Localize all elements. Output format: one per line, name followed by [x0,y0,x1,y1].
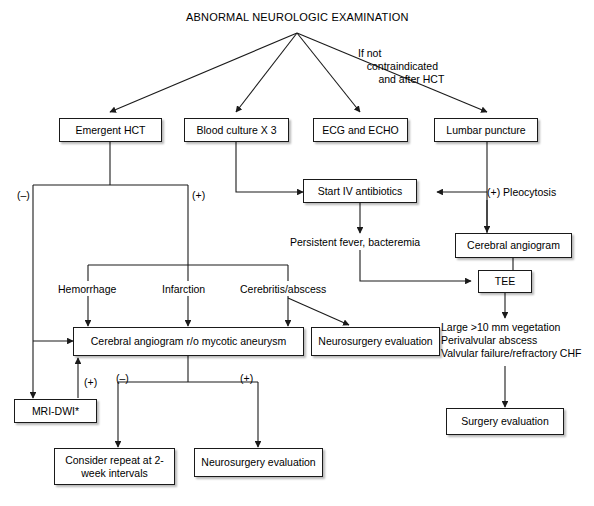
label-infarction: Infarction [162,283,205,296]
label-persistent-fever: Persistent fever, bacteremia [290,236,420,249]
node-ecg-echo[interactable]: ECG and ECHO [313,118,408,142]
edge-title-to-emergent-hct [110,33,297,112]
node-neurosurgery-evaluation-lower[interactable]: Neurosurgery evaluation [194,448,323,477]
edge-title-to-blood-culture [236,33,297,112]
edge-title-to-ecg-echo [297,33,360,112]
label-cerebritis-abscess: Cerebritis/abscess [240,283,326,296]
node-neurosurgery-evaluation-upper[interactable]: Neurosurgery evaluation [311,327,440,356]
node-start-iv-antibiotics[interactable]: Start IV antibiotics [303,179,417,203]
label-hemorrhage: Hemorrhage [58,283,116,296]
node-emergent-hct[interactable]: Emergent HCT [59,118,162,142]
node-surgery-evaluation[interactable]: Surgery evaluation [446,408,564,435]
edge-cerebritis-to-neurosurgery [288,298,349,325]
node-tee[interactable]: TEE [478,270,532,293]
label-hct-positive: (+) [192,189,205,202]
edge-blood-culture-to-antibiotics [236,142,303,192]
node-lumbar-puncture[interactable]: Lumbar puncture [434,118,538,142]
label-angiogram-positive: (+) [240,372,253,385]
node-mri-dwi[interactable]: MRI-DWI* [14,399,97,423]
node-consider-repeat[interactable]: Consider repeat at 2-week intervals [54,448,175,485]
label-pleocytosis: (+) Pleocytosis [487,186,556,199]
node-cerebral-angiogram-mycotic[interactable]: Cerebral angiogram r/o mycotic aneurysm [73,327,304,356]
label-angiogram-negative: (–) [116,372,129,385]
node-blood-culture[interactable]: Blood culture X 3 [184,118,289,142]
note-if-not-contraindicated: If not contraindicated and after HCT [358,47,444,86]
label-mri-positive: (+) [84,376,97,389]
label-hct-negative: (–) [17,189,30,202]
node-cerebral-angiogram[interactable]: Cerebral angiogram [455,233,572,258]
label-tee-criteria: Large >10 mm vegetation Perivalvular abs… [441,321,581,360]
page-title: ABNORMAL NEUROLOGIC EXAMINATION [186,11,409,23]
flowchart-diagram: ABNORMAL NEUROLOGIC EXAMINATION If not c… [0,0,594,506]
